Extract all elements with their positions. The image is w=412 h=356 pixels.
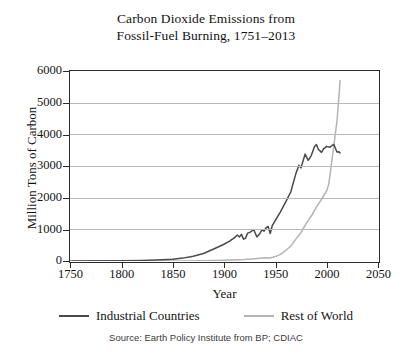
x-tick-mark-1900 bbox=[224, 263, 225, 268]
gridline-2000 bbox=[70, 198, 379, 199]
y-tick-label-3000: 3000 bbox=[2, 158, 62, 173]
plot-area bbox=[69, 70, 380, 263]
gridlines bbox=[70, 71, 379, 262]
x-axis-title: Year bbox=[69, 286, 380, 302]
y-tick-label-1000: 1000 bbox=[2, 222, 62, 237]
legend-label: Industrial Countries bbox=[96, 308, 200, 324]
x-tick-mark-2000 bbox=[327, 263, 328, 268]
chart-figure: Carbon Dioxide Emissions from Fossil-Fue… bbox=[0, 0, 412, 356]
y-tick-label-4000: 4000 bbox=[2, 127, 62, 142]
legend-label: Rest of World bbox=[281, 308, 353, 324]
gridline-5000 bbox=[70, 103, 379, 104]
gridline-3000 bbox=[70, 166, 379, 167]
x-tick-label-2050: 2050 bbox=[348, 267, 408, 282]
legend-entry-rest-of-world: Rest of World bbox=[244, 308, 353, 324]
legend-swatch-icon bbox=[244, 315, 274, 317]
x-tick-mark-1800 bbox=[122, 263, 123, 268]
y-tick-label-2000: 2000 bbox=[2, 190, 62, 205]
x-tick-mark-1850 bbox=[173, 263, 174, 268]
y-tick-label-5000: 5000 bbox=[2, 95, 62, 110]
chart-legend: Industrial CountriesRest of World bbox=[0, 308, 412, 324]
legend-entry-industrial-countries: Industrial Countries bbox=[59, 308, 200, 324]
y-tick-label-6000: 6000 bbox=[2, 63, 62, 78]
x-tick-mark-1950 bbox=[276, 263, 277, 268]
gridline-1000 bbox=[70, 229, 379, 230]
x-tick-mark-1750 bbox=[70, 263, 71, 268]
gridline-4000 bbox=[70, 134, 379, 135]
source-note: Source: Earth Policy Institute from BP; … bbox=[0, 332, 412, 343]
chart-title-line-1: Carbon Dioxide Emissions from bbox=[0, 10, 412, 27]
x-tick-mark-2050 bbox=[378, 263, 379, 268]
legend-swatch-icon bbox=[59, 315, 89, 317]
chart-title: Carbon Dioxide Emissions from Fossil-Fue… bbox=[0, 10, 412, 44]
chart-title-line-2: Fossil-Fuel Burning, 1751–2013 bbox=[0, 27, 412, 44]
